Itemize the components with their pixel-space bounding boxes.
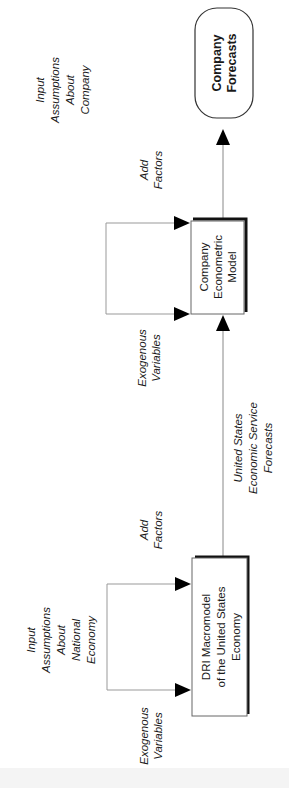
svg-text:Variables: Variables [150, 334, 162, 382]
dri-exogenous-label: Exogenous Variables [138, 707, 164, 765]
arrowhead-icon [216, 315, 230, 331]
dri-model-line3: Economy [230, 613, 242, 661]
svg-text:Input: Input [25, 626, 37, 652]
svg-text:Forecasts: Forecasts [262, 423, 274, 474]
svg-text:About: About [55, 624, 67, 656]
svg-text:Economy: Economy [85, 615, 97, 664]
company-forecasts-line2: Forecasts [225, 33, 239, 92]
svg-text:Company: Company [79, 64, 91, 114]
svg-text:About: About [64, 74, 76, 106]
svg-text:Exogenous: Exogenous [136, 329, 148, 387]
svg-text:Factors: Factors [152, 511, 164, 550]
company-input-assumptions-label: Input Assumptions About Company [34, 57, 91, 124]
company-forecasts-node: Company Forecasts [195, 8, 253, 118]
flow-diagram: Company Forecasts Company Econometric Mo… [0, 0, 289, 788]
svg-text:Economic Service: Economic Service [247, 402, 259, 494]
arrowhead-icon [216, 129, 230, 145]
svg-text:Assumptions: Assumptions [49, 57, 61, 124]
company-model-line1: Company [198, 242, 210, 291]
arrowhead-icon [175, 683, 191, 697]
arrowhead-icon [174, 216, 190, 230]
dri-input-assumptions-label: Input Assumptions About National Economy [25, 607, 97, 674]
dri-input-loop [107, 577, 191, 697]
svg-text:Assumptions: Assumptions [40, 607, 52, 674]
svg-text:Variables: Variables [152, 712, 164, 760]
svg-text:Add: Add [138, 519, 150, 541]
svg-text:Input: Input [34, 76, 46, 102]
company-add-factors-label: Add Factors [138, 151, 164, 190]
svg-text:Exogenous: Exogenous [138, 707, 150, 765]
company-exogenous-label: Exogenous Variables [136, 329, 162, 387]
dri-model-line1: DRI Macromodel [200, 594, 212, 680]
svg-text:National: National [70, 618, 82, 661]
company-model-node: Company Econometric Model [191, 219, 246, 314]
svg-text:United States: United States [232, 413, 244, 482]
us-service-forecasts-label: United States Economic Service Forecasts [232, 402, 274, 494]
scan-edge [0, 768, 289, 788]
svg-text:Factors: Factors [152, 151, 164, 190]
company-model-line3: Model [226, 251, 238, 282]
dri-add-factors-label: Add Factors [138, 511, 164, 550]
company-input-loop [106, 216, 190, 321]
dri-model-node: DRI Macromodel of the United States Econ… [192, 557, 248, 716]
arrowhead-icon [174, 307, 190, 321]
dri-model-line2: of the United States [215, 586, 227, 687]
company-forecasts-line1: Company [210, 34, 224, 91]
company-model-line2: Econometric [212, 235, 224, 299]
arrowhead-icon [175, 577, 191, 591]
svg-text:Add: Add [138, 159, 150, 181]
